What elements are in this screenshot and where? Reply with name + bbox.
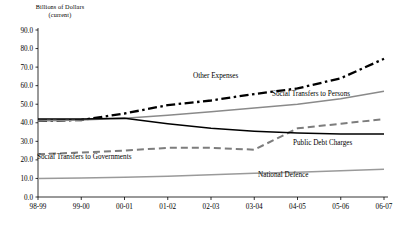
x-axis-tick-label: 98-99 [30, 203, 47, 211]
x-axis-tick-label: 02-03 [203, 203, 220, 211]
chart-container: Billions of Dollars(current) 0.010.020.0… [0, 0, 399, 226]
y-axis-tick-label: 50.0 [20, 101, 33, 109]
series-line [38, 119, 384, 154]
y-axis-tick-label: 20.0 [20, 156, 33, 164]
series-annotation-label: Social Transfers to Persons [272, 90, 350, 98]
y-axis-tick-label: 10.0 [20, 175, 33, 183]
x-axis-tick-group: 98-9999-0000-0101-0202-0303-0404-0505-06… [30, 197, 393, 211]
y-axis-tick-label: 80.0 [20, 45, 33, 53]
x-axis-tick-label: 01-02 [159, 203, 176, 211]
y-axis-tick-label: 60.0 [20, 82, 33, 90]
series-annotation-label: National Defence [258, 171, 309, 179]
x-axis-tick-label: 00-01 [116, 203, 133, 211]
series-annotation-label: Other Expenses [193, 72, 239, 80]
x-axis-tick-label: 04-05 [289, 203, 306, 211]
x-axis-tick-label: 99-00 [73, 203, 90, 211]
y-axis-tick-label: 70.0 [20, 64, 33, 72]
series-line [38, 169, 384, 178]
x-axis-tick-label: 03-04 [246, 203, 263, 211]
series-annotation-label: Public Debt Charges [293, 139, 353, 147]
series-annotation-label: Social Transfers to Governments [37, 153, 132, 161]
y-axis-tick-group: 0.010.020.030.040.050.060.070.080.090.0 [20, 27, 38, 202]
y-axis-tick-label: 40.0 [20, 119, 33, 127]
x-axis-tick-label: 05-06 [332, 203, 349, 211]
x-axis-tick-label: 06-07 [376, 203, 393, 211]
series-line [38, 118, 384, 134]
y-axis-tick-label: 30.0 [20, 138, 33, 146]
series-label-group: Other ExpensesSocial Transfers to Person… [37, 72, 353, 179]
line-chart-plot: 0.010.020.030.040.050.060.070.080.090.0 … [0, 0, 399, 226]
y-axis-tick-label: 0.0 [24, 194, 33, 202]
y-axis-tick-label: 90.0 [20, 27, 33, 35]
